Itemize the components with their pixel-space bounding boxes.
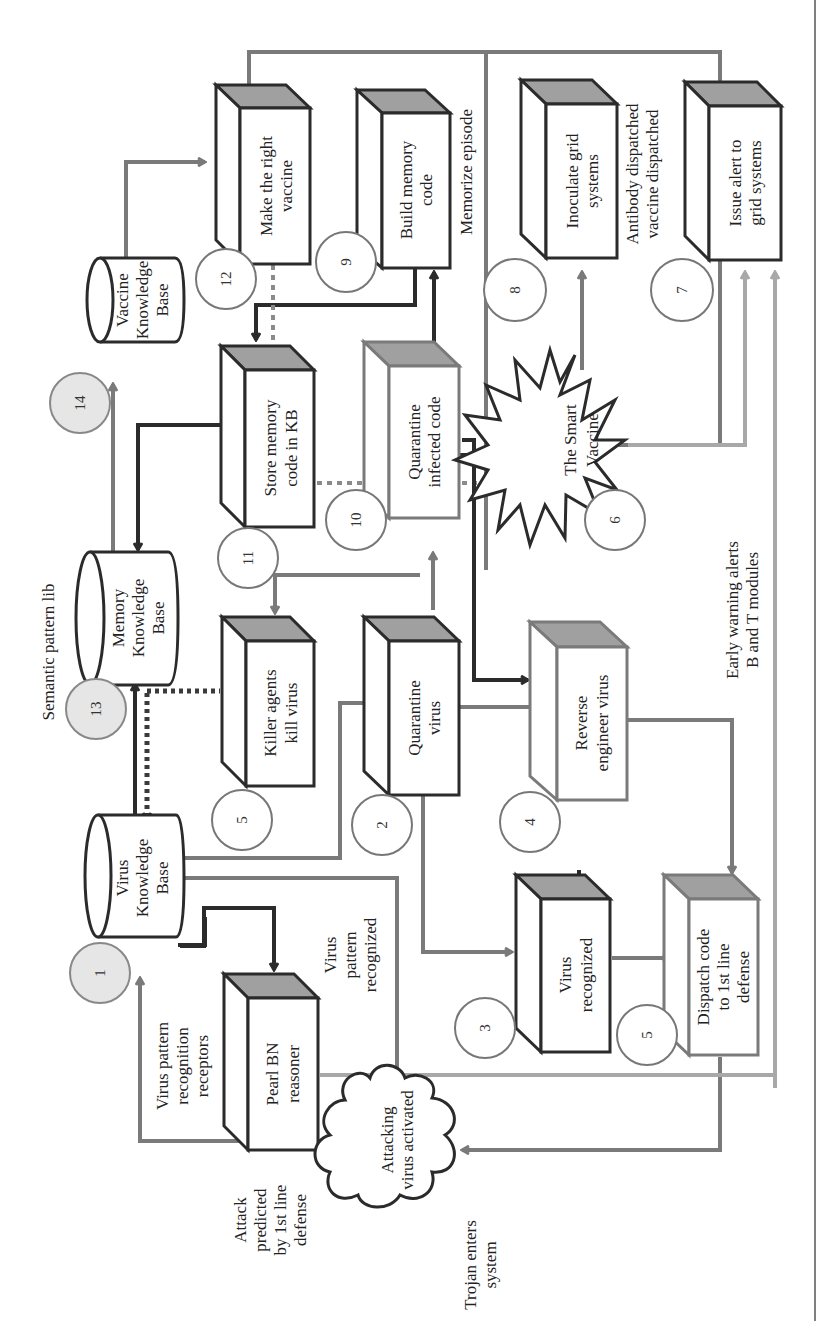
reverse-engineer-line1: Reverse: [572, 696, 591, 751]
annotation-virus-pattern-3: recognized: [361, 917, 380, 992]
annotation-virus-pattern-2: pattern: [341, 931, 360, 979]
annotation-antibody-2: vaccine dispatched: [643, 109, 662, 238]
memory-kb-line3: Base: [149, 601, 168, 634]
inoculate-line2: systems: [583, 154, 602, 208]
memory-kb-line2: Knowledge: [129, 579, 148, 657]
annotation-trojan-2: system: [481, 1241, 500, 1288]
badge-2-text: 2: [374, 821, 390, 829]
inoculate-line1: Inoculate grid: [563, 133, 582, 228]
badge-14-text: 14: [72, 395, 88, 411]
virus-kb-line3: Base: [153, 861, 172, 894]
annotation-early-warning-1: Early warning alerts: [723, 541, 742, 679]
attacking-virus-line2: virus activated: [398, 1090, 417, 1190]
annotation-early-warning-2: B and T modules: [743, 552, 762, 668]
smart-vaccine-line2: Vaccine: [583, 413, 602, 467]
vaccine-kb-line2: Knowledge: [133, 261, 152, 339]
annotation-receptors-3: receptors: [193, 1035, 212, 1097]
annotation-attack-predicted-1: Attack: [231, 1197, 250, 1243]
badge-4-text: 4: [522, 818, 538, 826]
annotation-attack-predicted-3: by 1st line: [271, 1185, 290, 1256]
quarantine-virus-line2: virus: [425, 701, 444, 735]
quarantine-virus-line1: Quarantine: [405, 680, 424, 756]
quarantine-code-line1: Quarantine: [405, 404, 424, 480]
killer-agents-line1: Killer agents: [261, 669, 280, 756]
badge-9-text: 9: [338, 258, 354, 266]
store-memory-line1: Store memory: [261, 399, 280, 496]
killer-agents-line2: kill virus: [282, 683, 301, 744]
attacking-virus-line1: Attacking: [378, 1106, 397, 1174]
dispatch-code-line2: to 1st line: [714, 943, 733, 1010]
build-memory-line2: code: [417, 174, 436, 206]
make-vaccine-line1: Make the right: [257, 136, 276, 236]
badge-8-text: 8: [507, 286, 523, 294]
annotation-semantic-pattern: Semantic pattern lib: [39, 584, 58, 721]
badge-7-text: 7: [674, 286, 690, 294]
make-vaccine-line2: vaccine: [277, 160, 296, 212]
virus-kb-line1: Virus: [113, 860, 132, 897]
annotation-antibody-1: Antibody dispatched: [623, 103, 642, 245]
badge-10-text: 10: [348, 513, 364, 528]
badge-5b-text: 5: [639, 1031, 655, 1039]
badge-12-text: 12: [218, 272, 234, 287]
dispatch-code-line3: defense: [734, 951, 753, 1003]
annotation-attack-predicted-2: predicted: [251, 1188, 270, 1252]
build-memory-line1: Build memory: [397, 140, 416, 239]
pearl-bn-line1: Pearl BN: [263, 1043, 282, 1106]
badge-6-text: 6: [607, 516, 623, 524]
annotation-trojan-1: Trojan enters: [461, 1220, 480, 1310]
badge-11-text: 11: [240, 551, 256, 565]
badge-3-text: 3: [477, 1024, 493, 1032]
badge-5a-text: 5: [234, 816, 250, 824]
quarantine-code-line2: infected code: [425, 396, 444, 487]
badge-1-text: 1: [92, 969, 108, 977]
virus-recognized-line2: recognized: [577, 937, 596, 1012]
store-memory-line2: code in KB: [282, 409, 301, 486]
diagram-canvas: 14 13 1 12 9 8 7 11 10 6 5 2 4 3 5 Vacci…: [0, 0, 822, 1321]
smart-vaccine-line1: The Smart: [561, 404, 580, 476]
issue-alert-line1: Issue alert to: [726, 140, 745, 227]
annotation-memorize-episode: Memorize episode: [457, 109, 476, 235]
annotation-attack-predicted-4: defense: [291, 1194, 310, 1246]
annotation-virus-pattern-1: Virus: [321, 937, 340, 974]
memory-kb-line1: Memory: [109, 588, 128, 647]
annotation-receptors-2: recognition: [173, 1027, 192, 1105]
virus-recognized-line1: Virus: [556, 957, 575, 994]
virus-kb-line2: Knowledge: [133, 839, 152, 917]
badge-13-text: 13: [88, 702, 104, 717]
vaccine-kb-line3: Base: [153, 283, 172, 316]
dispatch-code-line1: Dispatch code: [694, 929, 713, 1026]
annotation-receptors-1: Virus pattern: [153, 1021, 172, 1110]
pearl-bn-line2: reasoner: [284, 1045, 303, 1103]
reverse-engineer-line2: engineer virus: [593, 675, 612, 772]
issue-alert-line2: grid systems: [746, 140, 765, 225]
vaccine-kb-line1: Vaccine: [113, 273, 132, 327]
